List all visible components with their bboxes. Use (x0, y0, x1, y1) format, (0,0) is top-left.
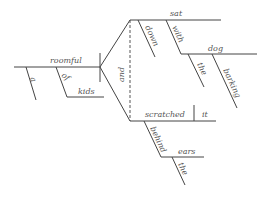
word-the-dog: the (195, 61, 209, 77)
word-it: it (202, 110, 209, 119)
word-roomful: roomful (50, 56, 82, 65)
fork-upper (100, 20, 130, 67)
word-barking: barking (221, 67, 242, 99)
modifier-line-a (26, 67, 36, 100)
word-dog: dog (208, 44, 223, 53)
word-sat: sat (170, 9, 183, 18)
word-ears: ears (178, 147, 195, 156)
word-and: and (117, 67, 126, 82)
word-behind: behind (148, 125, 168, 154)
word-scratched: scratched (145, 110, 185, 119)
word-the-ears: the (176, 161, 190, 177)
word-a: a (28, 76, 38, 84)
word-kids: kids (78, 87, 95, 96)
sentence-diagram: roomful a of kids and sat down with dog … (0, 0, 268, 198)
